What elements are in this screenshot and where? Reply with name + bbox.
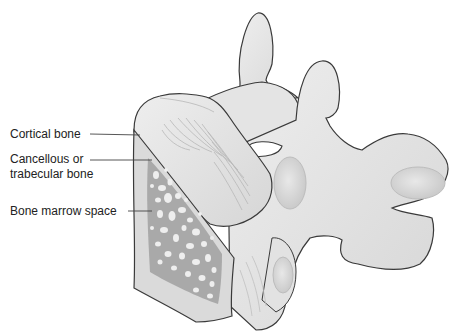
- label-cortical-bone: Cortical bone: [10, 127, 81, 142]
- facet-lower: [273, 257, 293, 293]
- leader-cortical: [90, 134, 140, 135]
- facet-left: [274, 157, 306, 209]
- label-cancellous-line2: trabecular bone: [10, 167, 93, 182]
- facet-right: [391, 167, 445, 199]
- vertebra-diagram: Cortical bone Cancellous or trabecular b…: [0, 0, 458, 334]
- label-bone-marrow-space: Bone marrow space: [10, 204, 117, 219]
- label-cancellous-line1: Cancellous or: [10, 152, 83, 167]
